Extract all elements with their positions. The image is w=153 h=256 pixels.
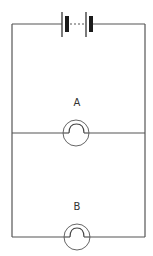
bulb-b-icon: [64, 224, 90, 250]
battery-icon: [62, 12, 93, 37]
bulb-a-icon: [63, 120, 89, 146]
circuit-diagram: A B: [0, 0, 153, 256]
bulb-a-label: A: [74, 97, 81, 108]
bulb-b-label: B: [74, 201, 81, 212]
